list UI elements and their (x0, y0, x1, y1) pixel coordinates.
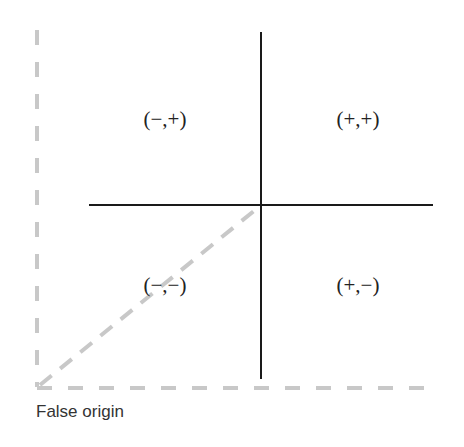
quadrant-top-right-label: (+,+) (337, 107, 380, 131)
quadrant-top-left-label: (−,+) (144, 107, 187, 131)
quadrant-bottom-left-label: (−,−) (144, 273, 187, 297)
quadrant-diagram: (−,+) (+,+) (−,−) (+,−) (0, 0, 464, 447)
false-origin-caption: False origin (36, 402, 124, 422)
quadrant-bottom-right-label: (+,−) (337, 273, 380, 297)
